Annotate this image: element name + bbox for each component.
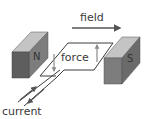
magnet-south: S	[104, 37, 140, 84]
current-label: current	[2, 105, 42, 118]
magnet-north: N	[12, 32, 48, 78]
magnet-north-side	[12, 52, 29, 78]
south-pole-label: S	[127, 53, 133, 64]
motor-effect-diagram: field N force S current	[0, 0, 155, 119]
north-pole-label: N	[33, 51, 40, 62]
field-label: field	[80, 11, 104, 24]
force-label: force	[61, 51, 89, 64]
magnet-south-front	[104, 58, 122, 84]
